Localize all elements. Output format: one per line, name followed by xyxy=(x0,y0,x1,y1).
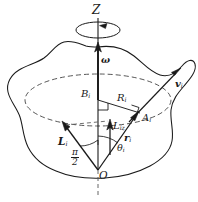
rigid-body-angular-momentum-figure: Z ω Bi Ri Ai vi ri Li Liz θi π 2 O xyxy=(0,0,198,202)
label-angular-momentum-liz-subscript: iz xyxy=(120,124,125,131)
label-point-a-subscript: i xyxy=(149,116,151,123)
label-omega: ω xyxy=(101,55,110,65)
label-pi-over-two: π 2 xyxy=(71,148,79,167)
fraction-numerator: π xyxy=(71,148,79,157)
theta-angle-arc xyxy=(98,136,118,143)
label-point-b-subscript: i xyxy=(88,92,90,99)
label-theta-i: θi xyxy=(117,143,125,154)
label-angular-momentum-li: Li xyxy=(58,136,67,148)
label-velocity-vi: vi xyxy=(175,79,183,90)
label-origin-o: O xyxy=(99,170,108,181)
right-angle-arc-pi-over-2 xyxy=(80,140,98,146)
fraction-pi-over-two: π 2 xyxy=(71,148,79,167)
label-angular-momentum-li-subscript: i xyxy=(65,140,67,148)
label-angular-momentum-liz-letter: L xyxy=(113,120,120,131)
label-axis-z: Z xyxy=(92,4,100,16)
label-radius-ri-subscript: i xyxy=(125,96,127,103)
label-radius-ri: Ri xyxy=(117,93,127,104)
label-angular-momentum-liz: Liz xyxy=(113,121,125,132)
label-position-ri-subscript: i xyxy=(129,136,131,143)
label-point-a: Ai xyxy=(142,113,151,124)
label-velocity-vi-subscript: i xyxy=(181,82,183,89)
spin-direction-arrowhead xyxy=(100,23,108,28)
label-theta-i-subscript: i xyxy=(123,147,125,153)
label-radius-ri-letter: R xyxy=(117,92,125,103)
label-point-b: Bi xyxy=(81,89,90,100)
right-angle-mark-b xyxy=(98,103,108,110)
label-position-ri: ri xyxy=(124,133,131,144)
fraction-denominator: 2 xyxy=(71,158,79,167)
